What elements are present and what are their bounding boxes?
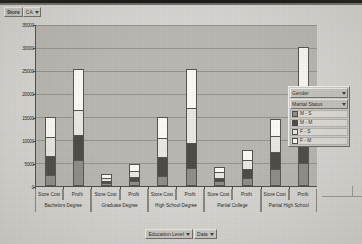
bar-stack[interactable] <box>270 119 281 186</box>
measure-axis-label[interactable]: Profit <box>63 189 91 200</box>
legend-item[interactable]: M - S <box>290 110 348 118</box>
legend-panel[interactable]: Gender Marital Status M - SM - MF - SF -… <box>288 86 350 147</box>
bar-stack[interactable] <box>45 117 56 186</box>
measure-axis-label[interactable]: Store Cost <box>91 189 119 200</box>
y-axis-tick-mark <box>33 71 36 72</box>
bar-segment[interactable] <box>158 118 167 140</box>
bar-segment[interactable] <box>158 139 167 158</box>
bar-segment[interactable] <box>243 170 252 179</box>
legend-dropdown-gender[interactable]: Gender <box>290 88 348 98</box>
measure-axis-label[interactable]: Store Cost <box>261 189 289 200</box>
y-axis-tick-label: 5000 <box>6 161 34 166</box>
legend-item-label: M - S <box>300 110 311 118</box>
bar-segment[interactable] <box>46 138 55 157</box>
y-axis-tick-mark <box>33 187 36 188</box>
bar-segment[interactable] <box>243 151 252 161</box>
bar-segment[interactable] <box>271 137 280 153</box>
y-axis-tick-label: 35000 <box>6 23 34 28</box>
bar-segment[interactable] <box>271 170 280 185</box>
legend-item[interactable]: M - M <box>290 119 348 127</box>
chevron-down-icon <box>342 92 346 95</box>
store-dimension-selector[interactable]: Store CA <box>4 7 41 17</box>
legend-dropdown-marital-status[interactable]: Marital Status <box>290 99 348 109</box>
x-axis-tick-mark <box>204 187 205 189</box>
measure-axis-label[interactable]: Store Cost <box>35 189 63 200</box>
bar-stack[interactable] <box>186 69 197 186</box>
measure-axis-label[interactable]: Store Cost <box>204 189 232 200</box>
chevron-down-icon <box>35 11 39 14</box>
x-axis-tick-mark <box>232 187 233 189</box>
bar-stack[interactable] <box>157 117 168 186</box>
toolbar-button-data[interactable]: Data <box>194 229 217 239</box>
bar-stack[interactable] <box>129 164 140 186</box>
category-axis-label[interactable]: High School Degree <box>148 200 204 212</box>
bar-segment[interactable] <box>271 153 280 169</box>
legend-item-label: F - S <box>300 128 310 136</box>
bar-stack[interactable] <box>101 174 112 186</box>
category-axis-label[interactable]: Bachelors Degree <box>35 200 91 212</box>
chevron-down-icon <box>342 103 346 106</box>
category-axis-label[interactable]: Partial College <box>204 200 260 212</box>
gridline <box>36 25 317 26</box>
y-axis-tick-label: 20000 <box>6 92 34 97</box>
x-axis-tick-mark <box>176 187 177 189</box>
y-axis-tick-mark <box>33 118 36 119</box>
y-axis-tick-mark <box>33 141 36 142</box>
y-axis-tick-mark <box>33 94 36 95</box>
store-dimension-value-dropdown[interactable]: CA <box>23 7 41 17</box>
legend-item[interactable]: F - M <box>290 137 348 145</box>
x-axis-tick-mark <box>289 187 290 189</box>
bar-segment[interactable] <box>46 176 55 185</box>
bar-segment[interactable] <box>158 177 167 185</box>
bar-stack[interactable] <box>73 69 84 186</box>
bar-segment[interactable] <box>187 109 196 145</box>
bar-stack[interactable] <box>214 167 225 186</box>
y-axis-tick-label: 0 <box>6 185 34 190</box>
category-axis-label[interactable]: Graduate Degree <box>91 200 147 212</box>
bar-segment[interactable] <box>215 182 224 185</box>
legend-item-label: F - M <box>300 137 311 145</box>
chevron-down-icon <box>210 233 214 236</box>
x-axis-tick-mark <box>63 187 64 189</box>
scan-artifact-line <box>322 196 362 197</box>
measure-axis-label[interactable]: Store Cost <box>148 189 176 200</box>
bar-segment[interactable] <box>46 118 55 138</box>
bar-segment[interactable] <box>187 144 196 169</box>
bar-stack[interactable] <box>242 150 253 186</box>
measure-axis-label[interactable]: Profit <box>289 189 317 200</box>
category-axis-label[interactable]: Partial High School <box>261 200 317 212</box>
y-axis-tick-mark <box>33 48 36 49</box>
bar-segment[interactable] <box>243 179 252 185</box>
y-axis-tick-mark <box>33 25 36 26</box>
bar-segment[interactable] <box>158 158 167 177</box>
bar-segment[interactable] <box>74 111 83 136</box>
bar-segment[interactable] <box>187 70 196 108</box>
bar-segment[interactable] <box>74 161 83 185</box>
bar-segment[interactable] <box>243 161 252 170</box>
y-axis-tick-label: 15000 <box>6 115 34 120</box>
bar-segment[interactable] <box>74 70 83 111</box>
x-axis-tick-mark <box>148 187 149 189</box>
bar-segment[interactable] <box>299 164 308 185</box>
legend-item[interactable]: F - S <box>290 128 348 136</box>
x-axis-tick-mark <box>261 187 262 189</box>
measure-axis-label[interactable]: Profit <box>232 189 260 200</box>
bar-segment[interactable] <box>130 165 139 172</box>
measure-axis-label[interactable]: Profit <box>176 189 204 200</box>
legend-item-label: M - M <box>300 119 312 127</box>
bar-segment[interactable] <box>102 184 111 185</box>
measure-axis-label[interactable]: Profit <box>120 189 148 200</box>
legend-swatch <box>292 129 298 135</box>
category-axis: Store CostProfitStore CostProfitStore Co… <box>35 187 317 213</box>
y-axis-tick-mark <box>33 164 36 165</box>
chevron-down-icon <box>186 233 190 236</box>
toolbar-button-education-level[interactable]: Education Level <box>145 229 193 239</box>
y-axis-tick-label: 10000 <box>6 138 34 143</box>
bar-segment[interactable] <box>130 182 139 185</box>
bar-segment[interactable] <box>46 157 55 176</box>
bar-segment[interactable] <box>271 120 280 136</box>
bar-segment[interactable] <box>74 136 83 161</box>
bar-segment[interactable] <box>187 169 196 185</box>
y-axis-tick-label: 30000 <box>6 46 34 51</box>
toolbar-button-label: Education Level <box>148 230 184 238</box>
